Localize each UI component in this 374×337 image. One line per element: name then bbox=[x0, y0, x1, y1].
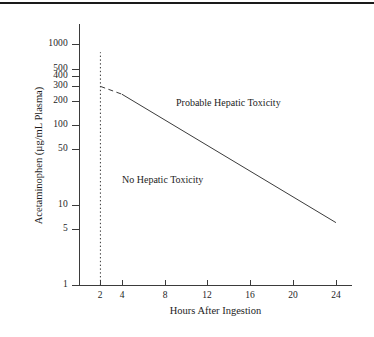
nomogram-series-layer bbox=[0, 0, 374, 337]
y-axis-title: Acetaminophen (µg/mL Plasma) bbox=[33, 46, 44, 266]
x-axis-title: Hours After Ingestion bbox=[79, 305, 352, 316]
annotation-probable-hepatic-toxicity: Probable Hepatic Toxicity bbox=[176, 97, 281, 108]
treatment-line-dashed-segment bbox=[100, 86, 121, 94]
acetaminophen-nomogram-chart: 1510501002003004005001000 24812162024 Pr… bbox=[0, 0, 374, 337]
nomogram-figure-page: 1510501002003004005001000 24812162024 Pr… bbox=[0, 0, 374, 337]
treatment-line-solid-segment bbox=[122, 94, 336, 222]
annotation-no-hepatic-toxicity: No Hepatic Toxicity bbox=[122, 174, 203, 185]
